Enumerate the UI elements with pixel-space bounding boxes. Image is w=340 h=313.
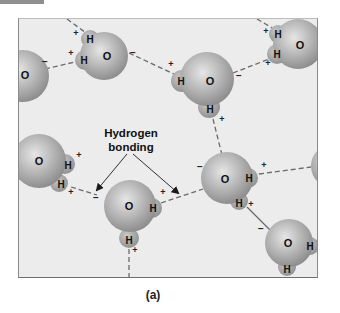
negative-charge: − — [93, 192, 99, 203]
hydrogen-label: H — [80, 55, 87, 66]
hydrogen-label: H — [64, 160, 71, 171]
oxygen-label: O — [125, 200, 134, 212]
oxygen-label: O — [284, 237, 293, 249]
water-molecule-3: H H O + + − — [168, 52, 242, 124]
molecule-diagram: O − H H O + + − H H O + + − — [18, 18, 318, 278]
hydrogen-label: H — [273, 49, 280, 60]
hydrogen-label: H — [235, 198, 242, 209]
hydrogen-label: H — [306, 241, 313, 252]
positive-charge: + — [265, 58, 270, 68]
hydrogen-label: H — [177, 76, 184, 87]
hydrogen-label: H — [274, 29, 281, 40]
positive-charge: + — [68, 48, 73, 58]
water-molecule-6: O H H + + − — [93, 180, 166, 255]
negative-charge: − — [130, 47, 136, 58]
top-tab-bar — [0, 0, 44, 4]
water-hydrogen-bonding-figure: O − H H O + + − H H O + + − — [18, 18, 318, 278]
positive-charge: + — [261, 160, 266, 170]
negative-charge: − — [236, 70, 242, 81]
positive-charge: + — [248, 199, 253, 209]
water-molecule-1: O − — [18, 50, 49, 102]
positive-charge: + — [76, 150, 81, 160]
hydrogen-label: H — [149, 203, 156, 214]
water-molecule-5: O H H + + — [18, 134, 82, 197]
positive-charge: + — [160, 187, 165, 197]
hydrogen-label: H — [206, 104, 213, 115]
positive-charge: + — [73, 28, 78, 38]
water-molecule-7: O H H + + − — [197, 152, 267, 210]
oxygen-label: O — [21, 69, 30, 81]
oxygen-label: O — [221, 173, 230, 185]
water-molecule-9 — [311, 144, 318, 188]
positive-charge: + — [263, 26, 268, 36]
oxygen-label: O — [206, 75, 215, 87]
hydrogen-label: H — [57, 179, 64, 190]
hydrogen-label: H — [283, 264, 290, 275]
positive-charge: + — [219, 114, 224, 124]
annotation-line-2: bonding — [108, 141, 153, 153]
annotation-line-1: Hydrogen — [104, 127, 158, 139]
hydrogen-label: H — [86, 34, 93, 45]
positive-charge: + — [68, 187, 73, 197]
negative-charge: − — [42, 56, 48, 67]
hydrogen-label: H — [245, 173, 252, 184]
positive-charge: + — [168, 59, 173, 69]
oxygen-label: O — [296, 39, 305, 51]
oxygen-label: O — [35, 155, 44, 167]
negative-charge: − — [258, 223, 264, 234]
positive-charge: + — [132, 245, 137, 255]
water-molecule-2: H H O + + − — [68, 28, 136, 80]
oxygen-label: O — [103, 50, 112, 62]
water-molecule-4: H H O + + — [263, 19, 318, 69]
figure-caption: (a) — [0, 288, 306, 302]
negative-charge: − — [197, 161, 203, 172]
